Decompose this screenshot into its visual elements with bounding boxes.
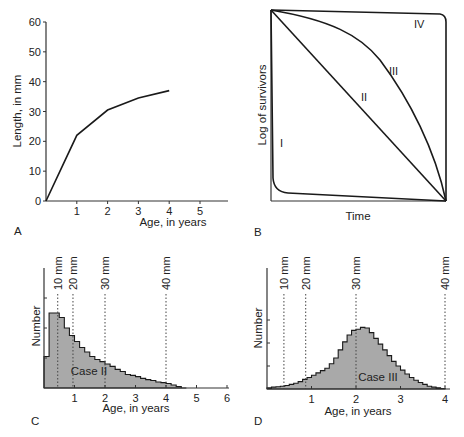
panel-c-histogram-case-ii: 10 mm20 mm30 mm40 mm 123456 Case II Age,… (30, 256, 230, 427)
x-tick-label: 5 (193, 392, 199, 404)
size-marker-label: 40 mm (160, 256, 172, 290)
x-axis-label: Time (345, 210, 370, 222)
case-label: Case II (71, 365, 107, 377)
size-marker-label: 10 mm (278, 256, 290, 290)
curve-ii (271, 10, 446, 201)
y-tick-label: 0 (35, 195, 41, 207)
figure: 0102030405060 12345 Age, in years Length… (0, 0, 464, 437)
x-axis-label: Age, in years (324, 405, 391, 417)
y-axis-label: Number (252, 307, 264, 348)
growth-curve (46, 91, 169, 201)
y-tick-label: 40 (29, 76, 41, 88)
y-axis-label: Number (30, 305, 42, 346)
x-tick-label: 1 (308, 393, 314, 405)
y-axis-label: Length, in mm (11, 75, 23, 148)
panel-a-growth-chart: 0102030405060 12345 Age, in years Length… (11, 16, 228, 237)
x-tick-label: 3 (397, 393, 403, 405)
x-tick-label: 2 (353, 393, 359, 405)
size-marker-label: 20 mm (300, 256, 312, 290)
x-axis-label: Age, in years (102, 402, 169, 414)
y-tick-label: 20 (29, 135, 41, 147)
x-tick-label: 4 (442, 393, 448, 405)
y-tick-label: 30 (29, 106, 41, 118)
panel-letter-b: B (254, 226, 262, 238)
case-label: Case III (358, 371, 398, 383)
x-tick-label: 1 (74, 205, 80, 217)
x-ticks: 12345 (74, 201, 203, 217)
x-axis-label: Age, in years (139, 216, 206, 228)
histogram (44, 313, 186, 388)
size-marker-label: 30 mm (99, 256, 111, 290)
x-tick-label: 1 (71, 392, 77, 404)
panel-letter-c: C (31, 415, 39, 427)
y-tick-label: 10 (29, 165, 41, 177)
panel-b-survivorship-chart: I II III IV Time Log of survivors B (254, 10, 446, 238)
panel-letter-a: A (14, 225, 22, 237)
curve-label-iii: III (389, 65, 398, 77)
size-marker-label: 40 mm (439, 256, 451, 290)
y-ticks: 0102030405060 (29, 16, 46, 207)
size-marker-label: 10 mm (52, 256, 64, 290)
curve-label-i: I (280, 137, 283, 149)
x-tick-label: 2 (105, 205, 111, 217)
y-tick-label: 50 (29, 46, 41, 58)
size-marker-label: 30 mm (350, 256, 362, 290)
curve-label-iv: IV (414, 18, 425, 30)
x-tick-label: 6 (224, 392, 230, 404)
panel-letter-d: D (254, 415, 262, 427)
panel-d-histogram-case-iii: 10 mm20 mm30 mm40 mm 1234 Case III Age, … (252, 256, 451, 427)
size-marker-label: 20 mm (67, 256, 79, 290)
y-axis-label: Log of survivors (256, 64, 268, 145)
curve-label-ii: II (361, 91, 367, 103)
y-tick-label: 60 (29, 16, 41, 28)
